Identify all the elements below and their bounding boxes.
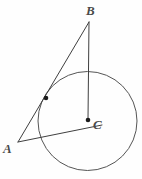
point-marker-center bbox=[86, 118, 91, 123]
segment-AC bbox=[18, 125, 102, 142]
geometry-canvas bbox=[0, 0, 142, 179]
point-marker-tangent bbox=[44, 96, 49, 101]
segment-BC bbox=[88, 22, 89, 120]
vertex-label-c: C bbox=[93, 118, 102, 131]
vertex-label-a: A bbox=[3, 142, 12, 155]
vertex-label-b: B bbox=[86, 4, 95, 17]
geometry-figure: B A C bbox=[0, 0, 142, 179]
segment-AB bbox=[18, 22, 89, 142]
